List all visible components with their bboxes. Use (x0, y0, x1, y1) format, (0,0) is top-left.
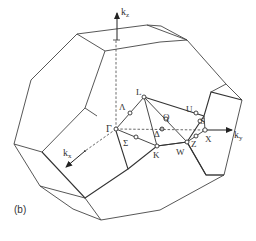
label-W: W (176, 147, 185, 157)
point-sigma (134, 135, 138, 139)
point-X (203, 128, 207, 132)
label-Z: Z (191, 139, 197, 149)
panel-label: (b) (14, 204, 26, 215)
label-X: X (205, 134, 212, 144)
ky-label: ky (234, 129, 243, 142)
label-Q: Q (163, 112, 170, 122)
label-U: U (186, 104, 193, 114)
point-delta (160, 127, 164, 131)
label-lambda: Λ (119, 102, 126, 112)
kz-label: kz (121, 6, 129, 19)
diagram-canvas: kz ky kx Γ Λ L Σ K Δ Q W Z X U S (0, 0, 256, 241)
label-delta: Δ (154, 129, 160, 139)
label-K: K (153, 150, 160, 160)
kx-label: kx (63, 147, 72, 160)
label-gamma: Γ (106, 123, 112, 134)
point-K (155, 144, 159, 148)
polyhedron-outline (14, 25, 242, 220)
point-Z (194, 134, 198, 138)
label-L: L (136, 87, 142, 97)
brillouin-zone-diagram: kz ky kx Γ Λ L Σ K Δ Q W Z X U S (0, 0, 256, 241)
point-gamma (114, 127, 118, 131)
point-W (185, 140, 189, 144)
label-S: S (200, 116, 205, 126)
point-lambda (128, 111, 132, 115)
label-sigma: Σ (123, 138, 128, 148)
point-U (194, 111, 198, 115)
point-L (142, 95, 146, 99)
